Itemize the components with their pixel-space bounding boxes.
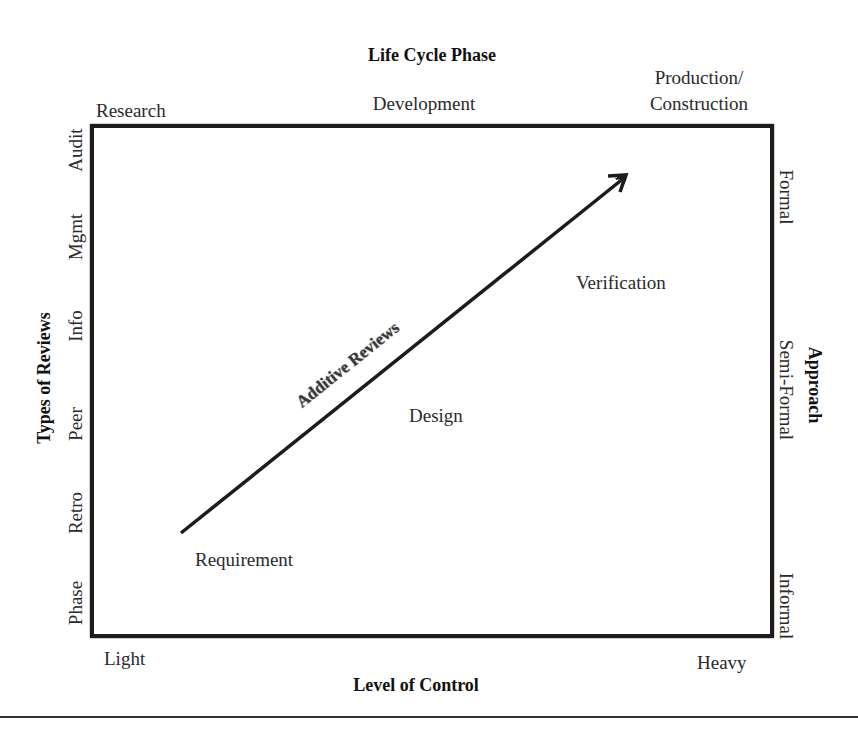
left-label-info: Info bbox=[65, 310, 87, 342]
phase-design: Design bbox=[409, 405, 463, 427]
right-axis-title: Approach bbox=[804, 347, 825, 424]
top-label-construction: Construction bbox=[650, 93, 748, 115]
left-label-audit: Audit bbox=[65, 128, 87, 171]
left-label-phase: Phase bbox=[65, 581, 87, 625]
top-axis-title: Life Cycle Phase bbox=[368, 45, 496, 66]
bottom-divider bbox=[0, 716, 858, 718]
diagram-frame bbox=[90, 124, 774, 638]
right-label-semi-formal: Semi-Formal bbox=[775, 340, 797, 440]
top-label-development: Development bbox=[373, 93, 475, 115]
bottom-axis-title: Level of Control bbox=[353, 675, 479, 696]
left-label-peer: Peer bbox=[65, 407, 87, 441]
top-label-research: Research bbox=[96, 100, 166, 122]
bottom-label-heavy: Heavy bbox=[697, 652, 747, 674]
phase-requirement: Requirement bbox=[195, 549, 293, 571]
left-axis-title: Types of Reviews bbox=[34, 312, 55, 444]
left-label-mgmt: Mgmt bbox=[65, 214, 87, 260]
left-label-retro: Retro bbox=[65, 492, 87, 534]
top-label-production: Production/ bbox=[655, 67, 744, 89]
bottom-label-light: Light bbox=[104, 648, 145, 670]
right-label-formal: Formal bbox=[775, 170, 797, 225]
right-label-informal: Informal bbox=[775, 573, 797, 639]
phase-verification: Verification bbox=[576, 272, 666, 294]
